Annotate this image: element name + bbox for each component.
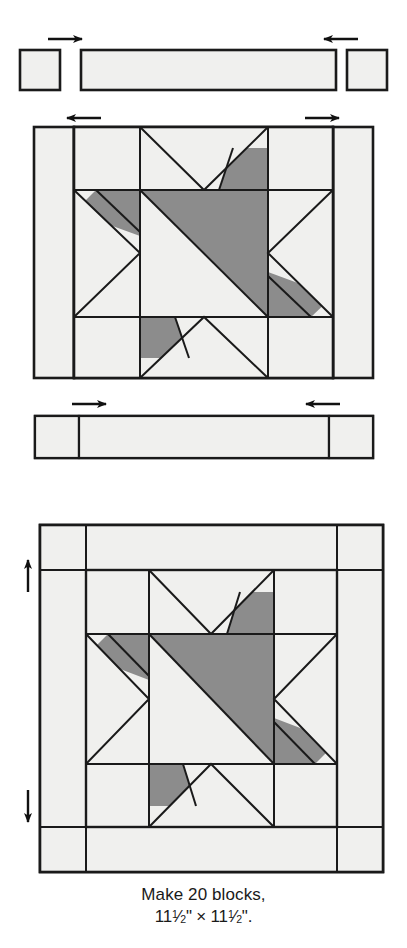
center-left-sashing-strip (34, 127, 74, 378)
step-bottom-sashing-row (35, 404, 373, 458)
star-corner-top-right (268, 127, 333, 190)
caption-line-1: Make 20 blocks, (0, 884, 407, 906)
quilt-assembly-diagram (0, 0, 407, 948)
finished-star-unit-center-hst (149, 634, 274, 764)
star-unit-right-middle (268, 190, 333, 317)
bottom-row-assembled (35, 416, 373, 458)
step-top-sashing-row (20, 39, 387, 90)
star-corner-bottom-left (74, 317, 140, 378)
center-unit-body (34, 127, 373, 378)
finished-star-corner-bottom-right (274, 764, 337, 827)
center-right-sashing-strip (333, 127, 373, 378)
finished-star-corner-bottom-left (86, 764, 149, 827)
caption-frac-numerator-2: 1 (228, 908, 234, 920)
star-block-center (74, 127, 333, 378)
finished-sashing-bottom (86, 827, 337, 872)
bottom-right-corner-square (329, 416, 373, 458)
star-unit-center-hst (140, 190, 268, 317)
top-right-corner-square (347, 50, 387, 90)
caption-dimension-separator: " × 11 (186, 907, 228, 926)
finished-star-unit-left-middle (86, 634, 149, 764)
bottom-left-corner-square (35, 416, 79, 458)
finished-star-unit-right-middle (274, 634, 337, 764)
caption-dimension-width-whole: 11 (155, 907, 172, 926)
bottom-sashing-strip (79, 416, 329, 458)
caption-line-2: 111⁄2" × 111⁄2". (0, 906, 407, 928)
top-sashing-strip (81, 50, 336, 90)
star-corner-bottom-right (268, 317, 333, 378)
finished-corner-square-top-left (40, 525, 86, 570)
finished-corner-square-bottom-right (337, 827, 383, 872)
finished-sashing-top (86, 525, 337, 570)
finished-star-corner-top-right (274, 570, 337, 634)
finished-corner-square-bottom-left (40, 827, 86, 872)
finished-star-block (86, 570, 337, 827)
finished-block-body (40, 525, 383, 872)
star-unit-top-middle (140, 127, 268, 190)
top-left-corner-square (20, 50, 60, 90)
finished-corner-square-top-right (337, 525, 383, 570)
caption-dimension-suffix: ". (242, 907, 252, 926)
finished-star-corner-top-left (86, 570, 149, 634)
step-center-star-unit (34, 118, 373, 378)
star-corner-top-left (74, 127, 140, 190)
finished-star-unit-bottom-middle (149, 764, 274, 827)
caption-frac-numerator-1: 1 (172, 908, 178, 920)
step-finished-block (28, 525, 383, 872)
finished-sashing-left (40, 570, 86, 827)
star-unit-bottom-middle (140, 317, 268, 378)
finished-star-unit-top-middle (149, 570, 274, 634)
star-unit-left-middle (74, 190, 140, 317)
finished-sashing-right (337, 570, 383, 827)
figure-stage: Make 20 blocks, 111⁄2" × 111⁄2". (0, 0, 407, 948)
